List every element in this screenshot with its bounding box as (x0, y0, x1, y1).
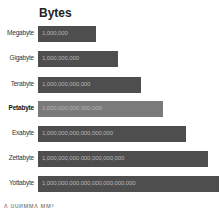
bar-row-petabyte[interactable]: Petabyte1,000,000,000,000,000 (0, 101, 219, 117)
bar[interactable]: 1,000,000,000,000,000,000,000 (38, 151, 208, 167)
bar-value-label: 1,000,000,000,000 (42, 81, 90, 87)
bar-label: Zettabyte (0, 154, 34, 161)
bar[interactable]: 1,000,000,000,000,000,000 (38, 126, 186, 142)
bar-row-zettabyte[interactable]: Zettabyte1,000,000,000,000,000,000,000 (0, 151, 219, 167)
bar-value-label: 1,000,000,000,000,000 (42, 105, 102, 111)
bar-label: Yottabyte (0, 179, 34, 186)
bar-label: Megabyte (0, 29, 34, 36)
bar-row-gigabyte[interactable]: Gigabyte1,000,000,000 (0, 51, 219, 67)
bar-value-label: 1,000,000,000 (42, 55, 79, 61)
bar-row-exabyte[interactable]: Exabyte1,000,000,000,000,000,000 (0, 126, 219, 142)
bar-value-label: 1,000,000,000,000,000,000 (42, 130, 113, 136)
bar-row-megabyte[interactable]: Megabyte1,000,000 (0, 26, 219, 42)
bar-label: Terabyte (0, 80, 34, 87)
bar[interactable]: 1,000,000,000,000,000,000,000,000 (38, 176, 219, 192)
bar-value-label: 1,000,000,000,000,000,000,000,000 (42, 180, 135, 186)
bar[interactable]: 1,000,000 (38, 26, 96, 42)
bar[interactable]: 1,000,000,000,000 (38, 77, 141, 93)
bar-row-terabyte[interactable]: Terabyte1,000,000,000,000 (0, 77, 219, 93)
bar-label: Gigabyte (0, 54, 34, 61)
bar-label: Exabyte (0, 129, 34, 136)
bar-value-label: 1,000,000 (42, 30, 68, 36)
bar-value-label: 1,000,000,000,000,000,000,000 (42, 155, 124, 161)
chart-title: Bytes (39, 6, 72, 20)
cropped-footer-text: ᴧ ᴜᴜᴎᴍᴍᴧ ᴍᴍ³ (4, 202, 54, 209)
bar[interactable]: 1,000,000,000 (38, 51, 118, 67)
bar-row-yottabyte[interactable]: Yottabyte1,000,000,000,000,000,000,000,0… (0, 176, 219, 192)
bar[interactable]: 1,000,000,000,000,000 (38, 101, 163, 117)
bar-label: Petabyte (0, 104, 34, 111)
